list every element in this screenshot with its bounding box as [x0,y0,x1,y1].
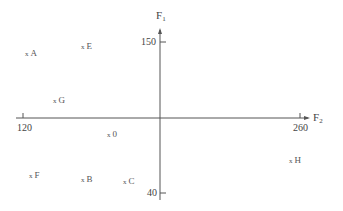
x-tick-label-260: 260 [293,123,308,133]
point-label: G [59,95,66,105]
y-axis-arrow-icon [158,28,162,34]
point-label: A [31,48,38,58]
y-tick-label-40: 40 [147,188,157,198]
y-axis-label: F1 [156,10,166,23]
point-A: xA [25,49,37,58]
point-label: F [35,170,40,180]
point-0: x0 [107,130,117,139]
x-marker-icon: x [289,157,293,165]
point-label: 0 [113,129,118,139]
axes-graphic [0,0,343,211]
y-axis-label-sub: 1 [162,15,166,23]
point-B: xB [81,175,93,184]
y-tick-label-150: 150 [141,37,156,47]
x-marker-icon: x [25,50,29,58]
point-label: C [129,176,135,186]
point-label: H [295,155,302,165]
point-G: xG [53,96,65,105]
x-axis-arrow-icon [304,116,310,120]
point-H: xH [289,156,301,165]
point-label: B [87,174,93,184]
x-marker-icon: x [81,176,85,184]
x-tick-label-120: 120 [17,123,32,133]
point-F: xF [29,171,40,180]
x-marker-icon: x [81,43,85,51]
x-axis-label: F2 [313,112,323,125]
x-axis-label-sub: 2 [319,117,323,125]
point-C: xC [123,177,135,186]
x-marker-icon: x [29,172,33,180]
point-label: E [87,41,93,51]
x-marker-icon: x [123,178,127,186]
point-E: xE [81,42,92,51]
x-marker-icon: x [107,131,111,139]
x-marker-icon: x [53,97,57,105]
